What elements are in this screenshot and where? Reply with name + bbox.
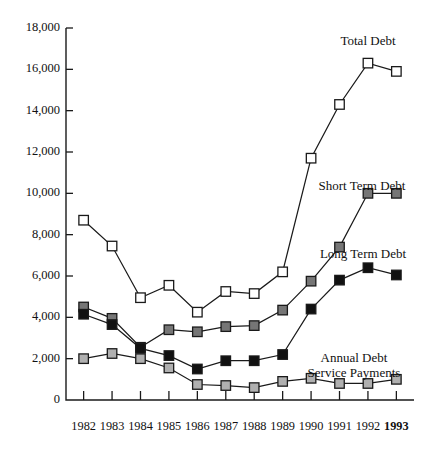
chart-axes xyxy=(66,28,414,400)
series-annotation-0: Total Debt xyxy=(318,33,418,48)
data-point-marker xyxy=(221,381,231,391)
data-point-marker xyxy=(221,322,231,332)
data-point-marker xyxy=(193,364,203,374)
data-point-marker xyxy=(249,289,259,299)
data-point-marker xyxy=(278,305,288,315)
data-point-marker xyxy=(221,287,231,297)
data-point-marker xyxy=(107,349,117,359)
series-line-1 xyxy=(84,193,397,347)
y-axis-tick-label: 14,000 xyxy=(26,104,60,117)
series-annotation-line-1: Annual Debt xyxy=(288,350,420,365)
y-axis-tick-label: 0 xyxy=(54,393,60,406)
data-point-marker xyxy=(249,356,259,366)
x-axis-tick-label: 1993 xyxy=(374,420,418,432)
data-point-marker xyxy=(107,320,117,330)
data-point-marker xyxy=(392,270,402,280)
data-point-marker xyxy=(193,307,203,317)
debt-line-chart: 02,0004,0006,0008,00010,00012,00014,0001… xyxy=(0,0,427,453)
data-point-marker xyxy=(136,354,146,364)
y-axis-tick-label: 12,000 xyxy=(26,145,60,158)
data-point-marker xyxy=(363,58,373,68)
data-point-marker xyxy=(278,377,288,387)
data-point-marker xyxy=(363,263,373,273)
y-axis-tick-label: 18,000 xyxy=(26,21,60,34)
series-annotation-2: Long Term Debt xyxy=(303,246,423,261)
data-point-marker xyxy=(164,363,174,373)
data-point-marker xyxy=(278,267,288,277)
series-annotation-1: Short Term Debt xyxy=(300,178,424,193)
y-axis-tick-label: 8,000 xyxy=(32,228,60,241)
data-point-marker xyxy=(79,354,89,364)
data-point-marker xyxy=(278,350,288,360)
y-axis-tick-label: 10,000 xyxy=(26,186,60,199)
data-point-marker xyxy=(249,383,259,393)
data-point-marker xyxy=(221,356,231,366)
data-point-marker xyxy=(335,275,345,285)
data-point-marker xyxy=(164,325,174,335)
series-annotation-3: Annual DebtService Payments xyxy=(288,350,420,381)
data-point-marker xyxy=(164,281,174,291)
data-point-marker xyxy=(306,153,316,163)
data-point-marker xyxy=(164,351,174,361)
data-point-marker xyxy=(79,309,89,319)
data-point-marker xyxy=(107,241,117,251)
y-axis-tick-label: 16,000 xyxy=(26,62,60,75)
data-point-marker xyxy=(249,321,259,331)
y-axis-tick-label: 6,000 xyxy=(32,269,60,282)
data-point-marker xyxy=(392,67,402,77)
chart-plot-area xyxy=(0,0,427,453)
data-point-marker xyxy=(193,327,203,337)
data-point-marker xyxy=(306,304,316,314)
data-point-marker xyxy=(193,380,203,390)
y-axis-tick-label: 4,000 xyxy=(32,310,60,323)
data-point-marker xyxy=(335,100,345,110)
series-annotation-line-2: Service Payments xyxy=(288,365,420,380)
data-point-marker xyxy=(79,215,89,225)
data-point-marker xyxy=(136,344,146,354)
data-point-marker xyxy=(306,276,316,286)
y-axis-tick-label: 2,000 xyxy=(32,352,60,365)
data-point-marker xyxy=(136,293,146,303)
